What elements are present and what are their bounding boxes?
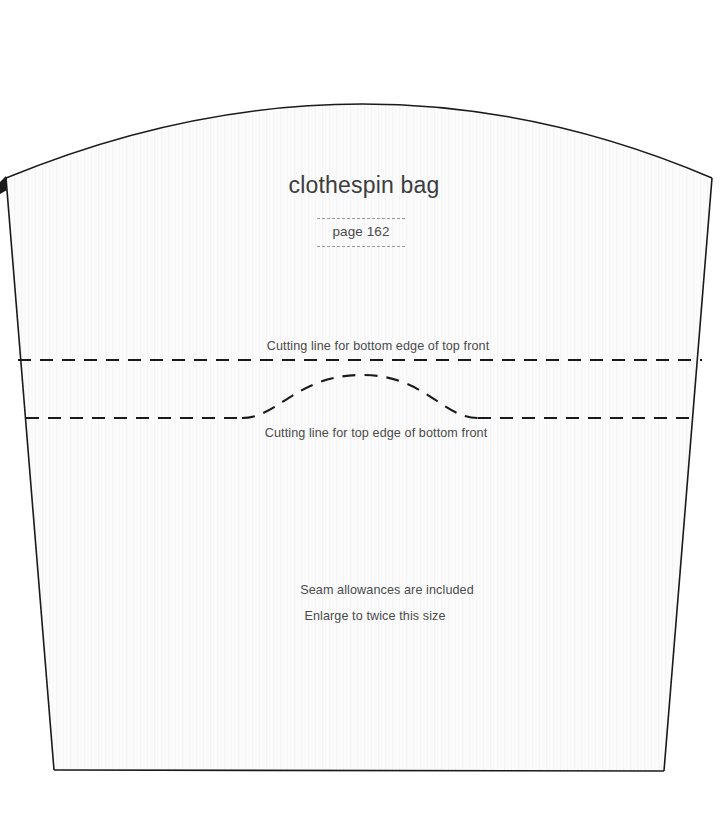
pattern-drawing: [0, 0, 728, 839]
seam-allowance-note: Seam allowances are included: [300, 583, 474, 597]
left-edge-nub: [0, 176, 7, 194]
decorative-rule-top: [317, 218, 405, 219]
cutting-line-lower-label: Cutting line for top edge of bottom fron…: [265, 426, 488, 440]
bottom-edge: [54, 770, 664, 771]
decorative-rule-bottom: [317, 246, 405, 247]
page-reference: page 162: [332, 224, 389, 239]
page-title: clothespin bag: [288, 172, 439, 199]
enlarge-note: Enlarge to twice this size: [304, 609, 445, 623]
pattern-sheet-page: clothespin bag page 162 Cutting line for…: [0, 0, 728, 839]
cutting-line-upper-label: Cutting line for bottom edge of top fron…: [267, 339, 490, 353]
